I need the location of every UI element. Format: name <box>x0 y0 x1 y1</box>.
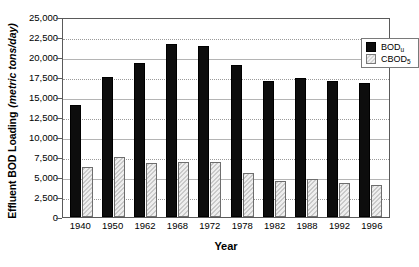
legend-label-bod-u: BODu <box>381 42 404 52</box>
x-axis-ticks: 1940195019621968197219781982198819921996 <box>62 220 390 234</box>
bar-group <box>65 19 97 217</box>
bar-bod-u-1978 <box>231 65 242 217</box>
x-tick-label: 1950 <box>96 220 128 234</box>
bar-group <box>97 19 129 217</box>
y-tick-label: 15,000 <box>6 93 58 103</box>
y-tick-label: 25,000 <box>6 13 58 23</box>
bar-group <box>323 19 355 217</box>
x-tick-label: 1940 <box>64 220 96 234</box>
y-tick-label: 0 <box>6 213 58 223</box>
y-tick-label: 12,500 <box>6 113 58 123</box>
bar-cbod-5-1978 <box>243 173 254 217</box>
bar-cbod-5-1962 <box>146 163 157 217</box>
y-tick-label: 5,000 <box>6 173 58 183</box>
bar-bod-u-1992 <box>327 81 338 217</box>
x-tick-label: 1988 <box>291 220 323 234</box>
bar-group <box>226 19 258 217</box>
y-tick-label: 17,500 <box>6 73 58 83</box>
bar-bod-u-1968 <box>166 44 177 217</box>
y-tick-label: 7,500 <box>6 153 58 163</box>
x-tick-label: 1972 <box>194 220 226 234</box>
bar-cbod-5-1992 <box>339 183 350 217</box>
y-tick-label: 2,500 <box>6 193 58 203</box>
plot-area: BODu CBOD5 <box>62 18 390 218</box>
bar-cbod-5-1996 <box>371 185 382 217</box>
x-tick-label: 1968 <box>161 220 193 234</box>
bar-cbod-5-1950 <box>114 157 125 217</box>
legend-item-cbod-5: CBOD5 <box>366 54 411 64</box>
bar-bod-u-1972 <box>198 46 209 217</box>
y-tick-label: 22,500 <box>6 33 58 43</box>
bar-group <box>290 19 322 217</box>
bar-cbod-5-1988 <box>307 179 318 217</box>
bar-cbod-5-1982 <box>275 181 286 217</box>
bar-bod-u-1988 <box>295 78 306 217</box>
x-tick-label: 1996 <box>356 220 388 234</box>
legend: BODu CBOD5 <box>361 38 419 68</box>
bar-bod-u-1982 <box>263 81 274 217</box>
x-tick-label: 1978 <box>226 220 258 234</box>
bar-bod-u-1940 <box>70 105 81 217</box>
y-tick-label: 10,000 <box>6 133 58 143</box>
bar-group <box>162 19 194 217</box>
y-tick-mark <box>56 218 62 219</box>
legend-item-bod-u: BODu <box>366 42 411 52</box>
bar-group <box>194 19 226 217</box>
bar-bod-u-1962 <box>134 63 145 217</box>
bar-cbod-5-1968 <box>178 162 189 217</box>
x-tick-label: 1992 <box>323 220 355 234</box>
legend-swatch-bod-u <box>366 42 376 52</box>
bar-groups <box>63 19 389 217</box>
bar-bod-u-1950 <box>102 77 113 217</box>
y-tick-label: 20,000 <box>6 53 58 63</box>
y-axis-ticks: 02,5005,0007,50010,00012,50015,00017,500… <box>0 18 58 218</box>
bar-group <box>129 19 161 217</box>
bar-cbod-5-1972 <box>210 162 221 217</box>
bar-bod-u-1996 <box>359 83 370 217</box>
x-tick-label: 1962 <box>129 220 161 234</box>
x-tick-label: 1982 <box>258 220 290 234</box>
bar-cbod-5-1940 <box>82 167 93 217</box>
legend-label-cbod-5: CBOD5 <box>381 54 411 64</box>
x-axis-title: Year <box>62 240 390 252</box>
legend-swatch-cbod-5 <box>366 54 376 64</box>
bar-group <box>258 19 290 217</box>
